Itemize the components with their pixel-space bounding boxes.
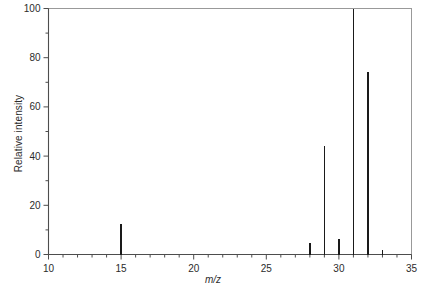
x-tick-label: 35 [406,263,418,274]
y-axis-label: Relative intensity [13,54,24,214]
y-tick-label: 80 [29,52,41,63]
x-tick-label: 20 [188,263,200,274]
x-tick-label: 30 [333,263,345,274]
plot-area: 020406080100 101520253035 [0,0,426,293]
x-axis-ticks: 101520253035 [43,255,418,274]
y-tick-label: 0 [35,249,41,260]
plot-frame [49,9,412,255]
y-tick-label: 40 [29,151,41,162]
x-tick-label: 25 [261,263,273,274]
y-tick-label: 100 [24,3,41,14]
x-tick-label: 10 [43,263,55,274]
y-axis-ticks: 020406080100 [24,3,49,260]
peak-lines [121,9,382,255]
x-axis-label: m/z [0,274,426,285]
y-tick-label: 20 [29,200,41,211]
mass-spectrum-chart: Relative intensity m/z 020406080100 1015… [0,0,426,293]
x-tick-label: 15 [116,263,128,274]
y-tick-label: 60 [29,101,41,112]
